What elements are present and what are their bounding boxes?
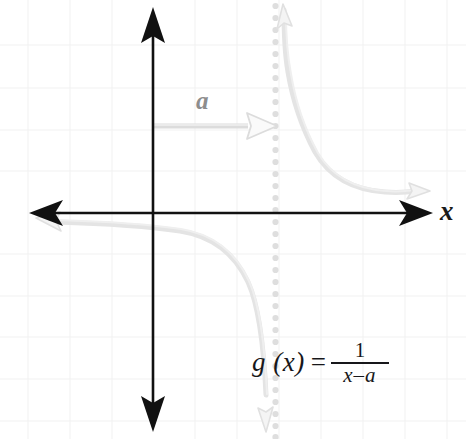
parameter-a-label: a [196, 88, 209, 113]
x-axis-label: x [440, 198, 454, 225]
formula-numerator: 1 [349, 340, 372, 362]
formula-equals-sign: = [311, 349, 326, 376]
formula-denominator-parameter: a [365, 363, 377, 387]
function-formula: g (x) = 1 x–a [252, 339, 389, 385]
graph-figure: a x g (x) = 1 x–a [0, 0, 466, 439]
curve-left-branch-inner [57, 220, 267, 394]
formula-denominator-minus: – [354, 363, 366, 387]
arrowhead-left-branch-down [258, 407, 273, 432]
formula-function-name: g (x) [252, 349, 305, 376]
y-axis [141, 7, 165, 432]
formula-denominator-variable: x [343, 363, 353, 387]
formula-denominator: x–a [339, 364, 380, 386]
graph-canvas [0, 0, 466, 439]
formula-fraction: 1 x–a [331, 340, 389, 386]
curve-left-branch [56, 222, 266, 395]
curve-right-branch-inner [286, 14, 415, 191]
curve-right-branch [284, 10, 416, 192]
parameter-a-arrow [154, 113, 277, 139]
